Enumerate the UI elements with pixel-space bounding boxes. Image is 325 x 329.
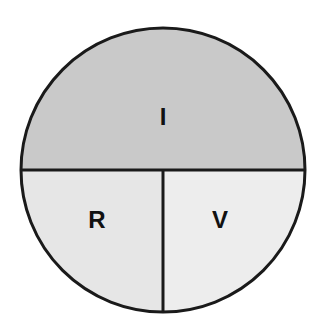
region-label-v: V: [212, 206, 228, 233]
region-label-r: R: [88, 206, 105, 233]
region-label-i: I: [160, 103, 167, 130]
diagram-root: I R V: [0, 0, 325, 329]
divided-circle-diagram: I R V: [0, 0, 325, 329]
